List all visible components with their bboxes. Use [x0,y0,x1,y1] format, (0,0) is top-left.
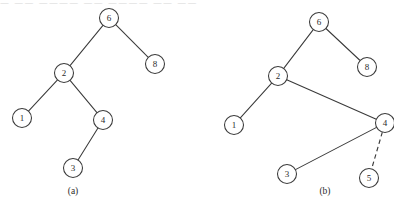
tree-node-6: 6 [310,13,329,32]
node-value-label: 6 [317,17,322,27]
nodes-layer: 6281436281435 [13,9,394,188]
panel-caption-panel-a: (a) [68,186,79,197]
node-value-label: 3 [285,169,290,179]
tree-edge-b2-b4 [287,80,377,119]
node-value-label: 1 [232,120,237,130]
tree-node-4: 4 [376,114,394,133]
tree-edge-b4-b5 [372,132,383,169]
tree-node-3: 3 [64,159,83,178]
tree-node-6: 6 [100,9,119,28]
node-value-label: 3 [71,163,76,173]
panel-caption-panel-b: (b) [319,186,330,197]
tree-node-5: 5 [360,169,379,188]
tree-node-1: 1 [225,116,244,135]
tree-node-3: 3 [278,165,297,184]
figure-root: — —— ———— —— ———— —— —— 6281436281435 (a… [0,0,394,211]
tree-node-8: 8 [358,58,377,77]
tree-edge-b4-b3 [295,127,376,169]
edges-layer [28,25,382,170]
tree-node-8: 8 [146,55,165,74]
captions-layer: (a)(b) [68,186,331,197]
tree-node-4: 4 [94,111,113,130]
tree-node-1: 1 [13,109,32,128]
node-value-label: 5 [367,173,372,183]
tree-edge-a6-a2 [70,25,103,65]
tree-edge-a4-a3 [78,128,98,160]
node-value-label: 8 [365,62,370,72]
node-value-label: 6 [107,13,112,23]
node-value-label: 4 [383,118,388,128]
tree-edge-b6-b2 [284,30,314,69]
tree-node-2: 2 [269,67,288,86]
tree-edge-a2-a1 [28,80,57,111]
tree-edge-b2-b1 [240,83,271,118]
node-value-label: 4 [101,115,106,125]
tree-edge-a2-a4 [70,80,97,112]
tree-edge-a6-a8 [116,25,149,58]
node-value-label: 8 [153,59,158,69]
node-value-label: 2 [276,71,281,81]
tree-node-2: 2 [55,64,74,83]
binary-tree-diagram: 6281436281435 (a)(b) [0,0,394,211]
node-value-label: 1 [20,113,25,123]
tree-edge-b6-b8 [326,29,360,61]
node-value-label: 2 [62,68,67,78]
